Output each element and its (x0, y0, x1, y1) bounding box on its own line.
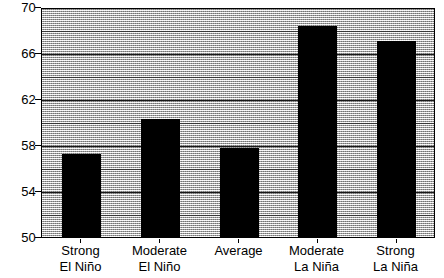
y-tick-label-66: 66 (21, 47, 36, 60)
x-tick-label-line-0: Strong (41, 243, 120, 259)
x-axis: StrongEl NiñoModerateEl NiñoAverageModer… (41, 239, 435, 278)
y-tick-label-58: 58 (21, 139, 36, 152)
bar-strong-la-niña[interactable] (377, 41, 416, 238)
x-tick-label-line-0: Average (199, 243, 278, 259)
gridline-major-58 (42, 146, 434, 147)
gridline-major-66 (42, 54, 434, 55)
x-tick-label-moderate-el-niño: ModerateEl Niño (120, 243, 199, 275)
x-tick-label-average: Average (199, 243, 278, 259)
y-axis: 505458626670 (0, 0, 41, 278)
y-tick-mark-58 (35, 145, 41, 146)
y-tick-mark-70 (35, 7, 41, 8)
y-tick-label-70: 70 (21, 1, 36, 14)
x-tick-label-line-0: Strong (356, 243, 435, 259)
y-tick-mark-50 (35, 237, 41, 238)
y-tick-mark-54 (35, 191, 41, 192)
x-tick-label-strong-el-niño: StrongEl Niño (41, 243, 120, 275)
gridline-major-62 (42, 100, 434, 101)
x-tick-label-strong-la-niña: StrongLa Niña (356, 243, 435, 275)
y-tick-label-50: 50 (21, 231, 36, 244)
x-tick-label-line-1: La Niña (356, 259, 435, 275)
y-tick-label-62: 62 (21, 93, 36, 106)
bar-chart: 505458626670 StrongEl NiñoModerateEl Niñ… (0, 0, 444, 278)
x-tick-label-line-1: La Niña (277, 259, 356, 275)
y-tick-label-54: 54 (21, 185, 36, 198)
x-tick-label-line-0: Moderate (277, 243, 356, 259)
bar-strong-el-niño[interactable] (62, 154, 101, 238)
x-tick-label-line-1: El Niño (41, 259, 120, 275)
x-tick-label-moderate-la-niña: ModerateLa Niña (277, 243, 356, 275)
bar-moderate-el-niño[interactable] (141, 119, 180, 238)
x-tick-label-line-1: El Niño (120, 259, 199, 275)
x-tick-label-line-0: Moderate (120, 243, 199, 259)
bar-average[interactable] (220, 148, 259, 238)
bar-moderate-la-niña[interactable] (298, 26, 337, 238)
plot-area (41, 8, 435, 238)
y-tick-mark-66 (35, 53, 41, 54)
gridline-minor-60 (42, 123, 434, 124)
y-tick-mark-62 (35, 99, 41, 100)
gridline-minor-64 (42, 77, 434, 78)
gridline-minor-68 (42, 31, 434, 32)
